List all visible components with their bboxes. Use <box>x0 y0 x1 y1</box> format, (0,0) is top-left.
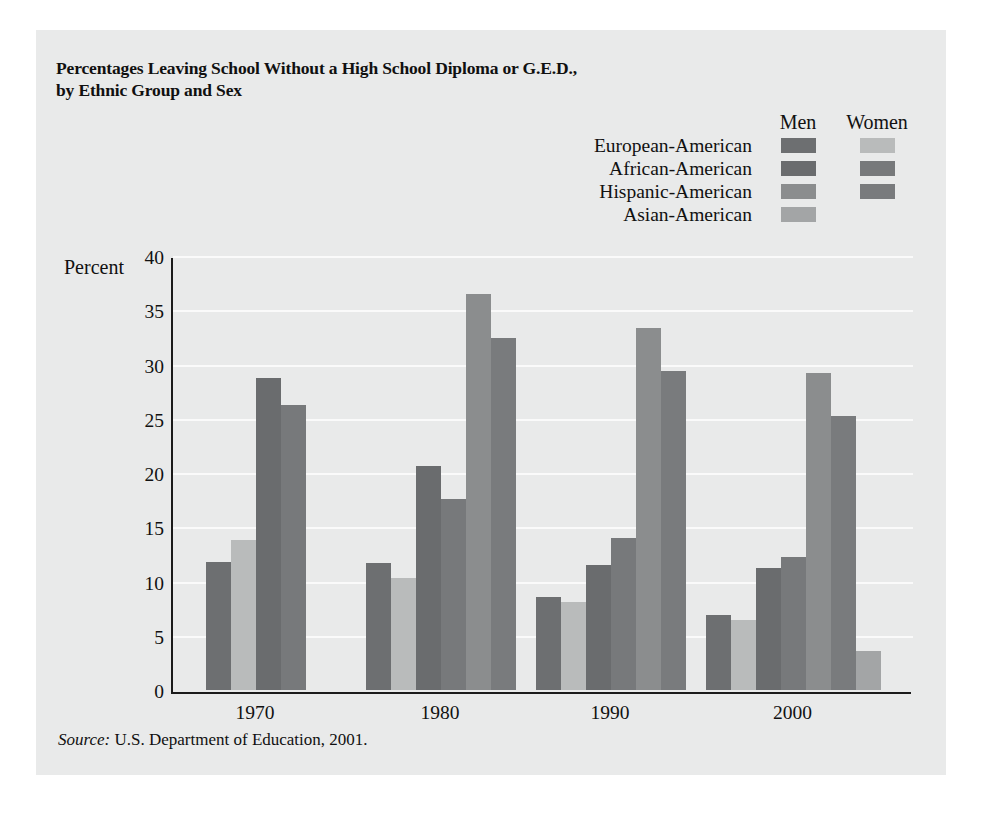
legend-swatch-cell-men <box>760 207 836 222</box>
plot-area: 4035302520151050 1970198019902000 <box>171 258 911 694</box>
bar-group <box>206 258 306 690</box>
x-axis-tick-label: 1970 <box>236 702 275 724</box>
bar-group <box>536 258 686 690</box>
legend-row: Hispanic-American <box>488 180 918 203</box>
bar <box>391 578 416 689</box>
legend-row-label: Asian-American <box>488 204 760 226</box>
bar <box>256 378 281 690</box>
bar <box>416 466 441 689</box>
legend-header-row: Men Women <box>488 108 918 134</box>
source-prefix: Source: <box>58 730 110 749</box>
bar-group <box>366 258 516 690</box>
x-axis-tick-label: 1990 <box>591 702 630 724</box>
legend-row-label: European-American <box>488 135 760 157</box>
bar <box>466 294 491 690</box>
legend-swatch-cell-men <box>760 161 836 176</box>
y-axis-tick-label: 5 <box>154 627 164 649</box>
legend-row: Asian-American <box>488 203 918 226</box>
bar <box>491 338 516 690</box>
y-axis-tick-label: 0 <box>154 681 164 703</box>
bar <box>756 568 781 690</box>
legend-row-label: African-American <box>488 158 760 180</box>
bar <box>706 615 731 689</box>
bar <box>831 416 856 690</box>
legend-rows: European-AmericanAfrican-AmericanHispani… <box>488 134 918 226</box>
bar <box>731 620 756 689</box>
bar <box>536 597 561 690</box>
legend-swatch-cell-women <box>836 207 918 222</box>
x-axis-tick-label: 2000 <box>773 702 812 724</box>
plot-area-wrapper: 4035302520151050 1970198019902000 <box>171 258 911 694</box>
source-note: Source: U.S. Department of Education, 20… <box>58 730 368 750</box>
bar <box>206 562 231 689</box>
bar-series-container <box>176 258 912 690</box>
legend-row: African-American <box>488 157 918 180</box>
source-text: U.S. Department of Education, 2001. <box>110 730 367 749</box>
legend-swatch-men <box>781 138 816 153</box>
page-title-line-2: by Ethnic Group and Sex <box>56 79 756 101</box>
bar <box>636 328 661 689</box>
chart-legend: Men Women European-AmericanAfrican-Ameri… <box>488 108 918 226</box>
page-title: Percentages Leaving School Without a Hig… <box>56 57 756 101</box>
bar <box>856 651 881 690</box>
legend-row: European-American <box>488 134 918 157</box>
bar <box>661 371 686 689</box>
legend-swatch-women <box>860 184 895 199</box>
y-axis-tick-label: 30 <box>145 356 165 378</box>
bar <box>281 405 306 690</box>
bar <box>561 602 586 689</box>
legend-swatch-cell-women <box>836 138 918 153</box>
legend-swatch-women <box>860 138 895 153</box>
y-axis-tick-label: 20 <box>145 464 165 486</box>
page-title-line-1: Percentages Leaving School Without a Hig… <box>56 57 756 79</box>
legend-header-men: Men <box>760 111 836 134</box>
legend-swatch-men <box>781 207 816 222</box>
bar <box>586 565 611 689</box>
legend-swatch-cell-women <box>836 161 918 176</box>
y-axis-tick-label: 35 <box>145 301 165 323</box>
y-axis-tick-label: 10 <box>145 573 165 595</box>
bar <box>441 499 466 690</box>
legend-row-label: Hispanic-American <box>488 181 760 203</box>
legend-header-women: Women <box>836 111 918 134</box>
figure-panel: Percentages Leaving School Without a Hig… <box>36 30 946 775</box>
x-axis-tick-label: 1980 <box>421 702 460 724</box>
y-axis-tick-label: 15 <box>145 518 165 540</box>
legend-swatch-women <box>860 161 895 176</box>
bar <box>366 563 391 689</box>
bar <box>781 557 806 690</box>
legend-swatch-cell-men <box>760 184 836 199</box>
bar <box>231 540 256 690</box>
bar <box>611 538 636 689</box>
legend-swatch-men <box>781 161 816 176</box>
y-axis-tick-label: 40 <box>145 247 165 269</box>
y-axis-tick-label: 25 <box>145 410 165 432</box>
legend-swatch-cell-men <box>760 138 836 153</box>
legend-swatch-cell-women <box>836 184 918 199</box>
bar <box>806 373 831 689</box>
legend-swatch-men <box>781 184 816 199</box>
y-axis-label: Percent <box>64 256 124 279</box>
bar-group <box>706 258 881 690</box>
